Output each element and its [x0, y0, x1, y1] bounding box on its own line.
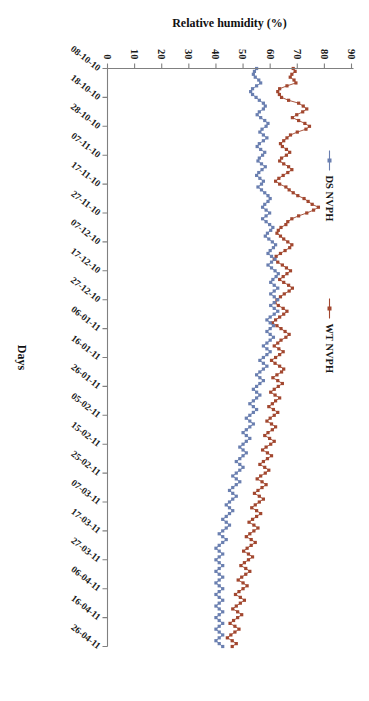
y-tick-label: 60	[264, 49, 275, 60]
x-axis-title: Days	[14, 344, 28, 370]
y-tick-label: 40	[210, 49, 221, 60]
relative-humidity-line-chart: 0102030405060708090 08-10-1018-10-1028-1…	[0, 0, 369, 701]
y-tick-label: 50	[237, 49, 248, 60]
legend-label: WT NVPH	[323, 323, 334, 373]
chart-background	[0, 0, 369, 701]
y-tick-label: 90	[345, 49, 356, 60]
legend-swatch-marker	[327, 158, 331, 162]
y-tick-label: 30	[183, 49, 194, 60]
y-tick-label: 10	[129, 49, 140, 60]
y-axis-title: Relative humidity (%)	[172, 15, 287, 29]
rotated-figure-container: 0102030405060708090 08-10-1018-10-1028-1…	[0, 0, 369, 701]
y-tick-label: 0	[101, 54, 112, 59]
y-tick-label: 20	[156, 49, 167, 60]
y-tick-label: 80	[318, 49, 329, 60]
legend-label: DS NVPH	[323, 175, 334, 221]
y-tick-label: 70	[291, 49, 302, 60]
legend-swatch-marker	[327, 306, 331, 310]
figure-page: 0102030405060708090 08-10-1018-10-1028-1…	[0, 0, 369, 701]
